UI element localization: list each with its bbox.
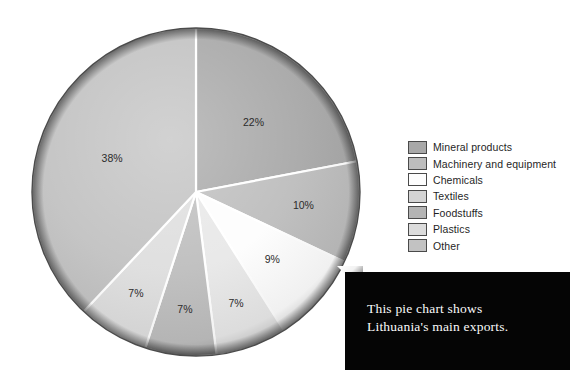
pie-chart-figure: 22%10%9%7%7%7%38% Mineral productsMachin… xyxy=(0,0,571,383)
legend-item[interactable]: Foodstuffs xyxy=(408,205,568,221)
legend-item[interactable]: Other xyxy=(408,237,568,253)
legend-swatch xyxy=(408,157,427,170)
legend-label: Other xyxy=(433,240,460,252)
legend-item[interactable]: Textiles xyxy=(408,188,568,204)
legend-label: Chemicals xyxy=(433,174,483,186)
legend-label: Plastics xyxy=(433,223,470,235)
caption-line-2: Lithuania's main exports. xyxy=(367,318,508,336)
pie-rim-shade xyxy=(32,28,360,356)
legend-swatch xyxy=(408,223,427,236)
pie-slice-label: 38% xyxy=(102,152,123,164)
caption-line-1: This pie chart shows xyxy=(367,300,508,318)
legend-label: Foodstuffs xyxy=(433,207,483,219)
pie-slice-label: 7% xyxy=(128,287,143,299)
legend-item[interactable]: Mineral products xyxy=(408,139,568,155)
legend-item[interactable]: Plastics xyxy=(408,221,568,237)
chart-legend: Mineral productsMachinery and equipmentC… xyxy=(408,139,568,254)
legend-label: Machinery and equipment xyxy=(433,158,556,170)
legend-swatch xyxy=(408,239,427,252)
legend-swatch xyxy=(408,173,427,186)
legend-item[interactable]: Chemicals xyxy=(408,172,568,188)
caption-text: This pie chart shows Lithuania's main ex… xyxy=(367,300,508,336)
pie-slice-label: 7% xyxy=(228,297,243,309)
legend-swatch xyxy=(408,206,427,219)
pie-slice-label: 10% xyxy=(293,199,314,211)
legend-label: Textiles xyxy=(433,190,469,202)
pie-slice-label: 9% xyxy=(265,253,280,265)
legend-swatch xyxy=(408,141,427,154)
caption-box: This pie chart shows Lithuania's main ex… xyxy=(345,272,570,370)
legend-label: Mineral products xyxy=(433,141,512,153)
legend-swatch xyxy=(408,190,427,203)
pie-slice-label: 22% xyxy=(243,116,264,128)
legend-item[interactable]: Machinery and equipment xyxy=(408,155,568,171)
pie-slice-label: 7% xyxy=(177,303,192,315)
